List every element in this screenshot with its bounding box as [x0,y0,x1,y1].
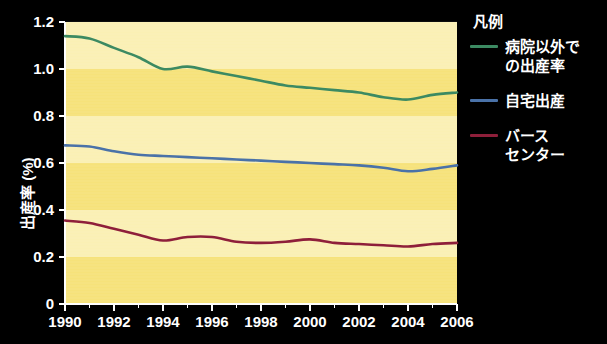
x-tick-2004: 2004 [385,313,431,330]
legend-item-label: バース センター [505,126,565,164]
x-tick-2006: 2006 [434,313,480,330]
legend-item-2[interactable]: バース センター [470,126,602,164]
legend-swatch-icon [470,134,498,137]
y-tick-1.2: 1.2 [12,13,54,30]
x-tick-1998: 1998 [238,313,284,330]
legend-item-label: 自宅出産 [505,91,565,110]
x-tick-2000: 2000 [287,313,333,330]
y-tick-1.0: 1.0 [12,60,54,77]
legend-swatch-icon [470,99,498,102]
legend-items: 病院以外で の出産率自宅出産バース センター [470,37,602,164]
x-tick-1994: 1994 [140,313,186,330]
y-tick-0.4: 0.4 [12,201,54,218]
x-tick-1996: 1996 [189,313,235,330]
x-tick-2002: 2002 [336,313,382,330]
y-tick-0.8: 0.8 [12,107,54,124]
legend: 凡例 病院以外で の出産率自宅出産バース センター [470,10,602,180]
x-tick-1992: 1992 [91,313,137,330]
legend-item-label: 病院以外で の出産率 [505,37,580,75]
y-tick-0.2: 0.2 [12,248,54,265]
y-tick-0: 0 [12,295,54,312]
legend-item-1[interactable]: 自宅出産 [470,91,602,110]
legend-item-0[interactable]: 病院以外で の出産率 [470,37,602,75]
legend-title: 凡例 [473,10,602,31]
chart-container: 出産率 (%) 00.20.40.60.81.01.2 199019921994… [0,0,607,344]
legend-swatch-icon [470,45,498,48]
y-tick-0.6: 0.6 [12,154,54,171]
x-tick-1990: 1990 [42,313,88,330]
